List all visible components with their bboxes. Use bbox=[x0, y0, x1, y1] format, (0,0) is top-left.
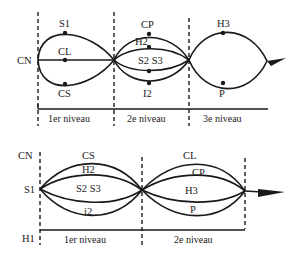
level-label-1-bottom: 1er niveau bbox=[64, 234, 106, 245]
node-s2s3 bbox=[147, 69, 151, 73]
label-s1-bottom: S1 bbox=[24, 184, 35, 195]
label-p: P bbox=[219, 88, 225, 99]
label-i2-bottom: i2 bbox=[84, 206, 92, 217]
label-s2s3: S2 S3 bbox=[138, 55, 163, 66]
top-level3-loop bbox=[189, 32, 267, 88]
label-h1: H1 bbox=[22, 233, 35, 244]
top-arrow-icon bbox=[267, 58, 286, 66]
node-s1 bbox=[63, 31, 67, 35]
label-cs-bottom: CS bbox=[82, 150, 95, 161]
top-diagram: CN S1 CL CS CP H2 S2 S3 I2 H3 P 1er nive… bbox=[17, 12, 286, 126]
label-cn-bottom: CN bbox=[18, 150, 33, 161]
node-cl bbox=[63, 58, 67, 62]
label-cp: CP bbox=[141, 19, 154, 30]
label-cl: CL bbox=[58, 46, 71, 57]
label-s2s3-bottom: S2 S3 bbox=[76, 183, 101, 194]
label-s1: S1 bbox=[59, 18, 70, 29]
label-cn: CN bbox=[17, 55, 32, 66]
bottom-diagram: CN S1 H1 CS H2 S2 S3 i2 CL CP H3 P 1er n… bbox=[18, 150, 285, 245]
level-label-2: 2e niveau bbox=[127, 113, 166, 124]
label-p-bottom: P bbox=[190, 204, 196, 215]
diagram-canvas: CN S1 CL CS CP H2 S2 S3 I2 H3 P 1er nive… bbox=[0, 0, 305, 263]
label-cl-bottom: CL bbox=[183, 150, 196, 161]
node-h3 bbox=[221, 31, 225, 35]
label-h2-bottom: H2 bbox=[82, 164, 95, 175]
level-label-3: 3e niveau bbox=[203, 113, 242, 124]
label-h2: H2 bbox=[135, 36, 148, 47]
level-label-2-bottom: 2e niveau bbox=[174, 234, 213, 245]
label-h3-bottom: H3 bbox=[185, 185, 198, 196]
label-h3: H3 bbox=[217, 18, 230, 29]
label-cp-bottom: CP bbox=[192, 167, 205, 178]
node-p bbox=[221, 81, 225, 85]
node-i2 bbox=[147, 81, 151, 85]
node-cs bbox=[63, 82, 67, 86]
bottom-arrow-icon bbox=[258, 189, 285, 197]
level-label-1: 1er niveau bbox=[48, 113, 90, 124]
label-i2: I2 bbox=[143, 88, 152, 99]
label-cs: CS bbox=[58, 88, 71, 99]
